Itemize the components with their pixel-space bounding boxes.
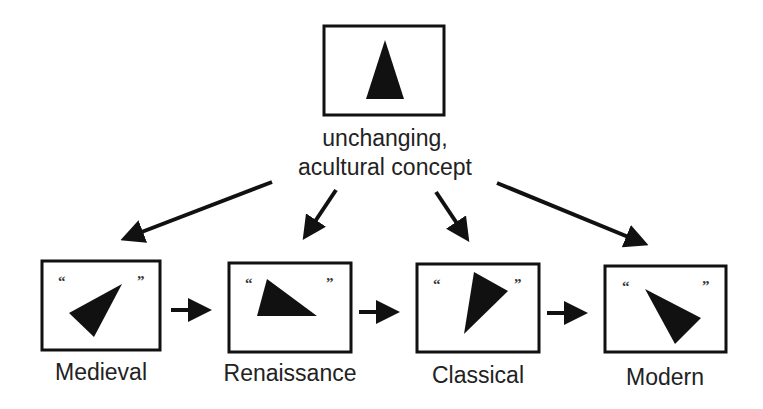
concept-arrows: [126, 182, 643, 243]
concept-label-line2: acultural concept: [235, 153, 535, 182]
arrow-to-modern: [497, 183, 643, 243]
diagram-canvas: [0, 0, 763, 409]
arrow-to-renaissance: [306, 190, 336, 235]
period-label-classical: Classical: [403, 362, 553, 389]
close-quote: ”: [702, 278, 710, 295]
open-quote: “: [58, 273, 66, 290]
open-quote: “: [622, 278, 630, 295]
arrow-to-medieval: [126, 182, 272, 238]
close-quote: ”: [514, 276, 522, 293]
close-quote: ”: [137, 273, 145, 290]
concept-label: unchanging, acultural concept: [235, 124, 535, 182]
arrow-to-classical: [436, 192, 466, 237]
period-label-medieval: Medieval: [31, 359, 171, 386]
close-quote: ”: [326, 275, 334, 292]
open-quote: “: [433, 276, 441, 293]
concept-label-line1: unchanging,: [235, 124, 535, 153]
period-label-modern: Modern: [595, 364, 735, 391]
period-label-renaissance: Renaissance: [205, 360, 375, 387]
open-quote: “: [245, 275, 253, 292]
concept-box: [324, 26, 444, 115]
